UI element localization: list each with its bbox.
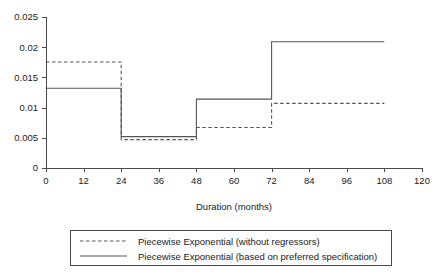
y-tick-label: 0.005 [14, 132, 38, 143]
legend-label-0: Piecewise Exponential (without regressor… [138, 236, 320, 247]
x-tick-label: 120 [414, 175, 430, 186]
x-tick-label: 72 [266, 175, 277, 186]
y-tick-label: 0.01 [20, 102, 39, 113]
x-tick-label: 24 [116, 175, 127, 186]
x-tick-label: 12 [78, 175, 89, 186]
y-tick-label: 0.025 [14, 11, 38, 22]
x-tick-label: 0 [43, 175, 48, 186]
step-chart: 00.0050.010.0150.020.025 012243648607284… [0, 0, 438, 278]
x-axis-tick-labels: 01224364860728496108120 [43, 175, 430, 186]
x-axis-title: Duration (months) [196, 201, 272, 212]
legend-label-1: Piecewise Exponential (based on preferre… [138, 251, 377, 262]
y-tick-label: 0.015 [14, 72, 38, 83]
x-tick-label: 48 [191, 175, 202, 186]
x-tick-label: 60 [229, 175, 240, 186]
y-axis-tick-labels: 00.0050.010.0150.020.025 [14, 11, 38, 173]
legend: Piecewise Exponential (without regressor… [71, 231, 392, 266]
series-line-preferred-specification [46, 42, 384, 137]
chart-container: 00.0050.010.0150.020.025 012243648607284… [0, 0, 438, 278]
data-series-group [46, 42, 384, 140]
y-axis-ticks [42, 18, 46, 169]
x-tick-label: 84 [304, 175, 315, 186]
y-tick-label: 0 [33, 162, 38, 173]
x-tick-label: 108 [376, 175, 392, 186]
series-line-without-regressors [46, 62, 384, 140]
x-tick-label: 96 [342, 175, 353, 186]
x-axis: 01224364860728496108120 Duration (months… [43, 168, 430, 212]
x-tick-label: 36 [154, 175, 165, 186]
y-axis: 00.0050.010.0150.020.025 [14, 11, 46, 173]
y-tick-label: 0.02 [20, 42, 39, 53]
